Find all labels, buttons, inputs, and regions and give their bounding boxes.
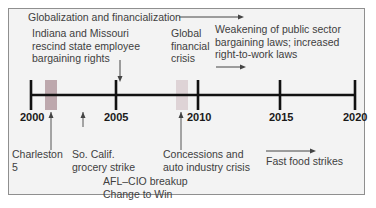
arrow-head-icon bbox=[238, 15, 244, 20]
year-label-2005: 2005 bbox=[104, 111, 128, 123]
financial-crisis-label: Global financial crisis bbox=[171, 27, 210, 65]
label-line: Change to Win bbox=[103, 188, 188, 201]
label-line: auto industry crisis bbox=[163, 161, 250, 174]
label-line: grocery strike bbox=[72, 161, 135, 174]
label-line: bargaining rights bbox=[32, 52, 140, 65]
fast-food-label: Fast food strikes bbox=[266, 155, 343, 168]
label-line: Global bbox=[171, 27, 210, 40]
arrow-head-icon bbox=[179, 112, 184, 118]
arrow-head-icon bbox=[81, 112, 86, 118]
label-line: right-to-work laws bbox=[215, 48, 341, 61]
label-line: rescind state employee bbox=[32, 40, 140, 53]
weakening-laws-label: Weakening of public sector bargaining la… bbox=[215, 23, 341, 61]
label-line: AFL–CIO breakup bbox=[103, 175, 188, 188]
year-label-2000: 2000 bbox=[20, 111, 44, 123]
year-label-2020: 2020 bbox=[343, 111, 367, 123]
indiana-missouri-label: Indiana and Missouri rescind state emplo… bbox=[32, 27, 140, 65]
arrow-head-icon bbox=[310, 149, 316, 154]
label-line: financial bbox=[171, 40, 210, 53]
label-line: So. Calif. bbox=[72, 148, 135, 161]
arrow-head-icon bbox=[118, 76, 123, 82]
year-label-2010: 2010 bbox=[187, 111, 211, 123]
charleston-label: Charleston 5 bbox=[12, 148, 63, 173]
label-line: 5 bbox=[12, 161, 63, 174]
label-line: bargaining laws; increased bbox=[215, 36, 341, 49]
arrow-head-icon bbox=[49, 112, 54, 118]
label-line: Indiana and Missouri bbox=[32, 27, 140, 40]
grocery-strike-label: So. Calif. grocery strike bbox=[72, 148, 135, 173]
year-label-2015: 2015 bbox=[269, 111, 293, 123]
concessions-label: Concessions and auto industry crisis bbox=[163, 148, 250, 173]
afl-cio-label: AFL–CIO breakup Change to Win bbox=[103, 175, 188, 200]
label-line: Charleston bbox=[12, 148, 63, 161]
arrow-head-icon bbox=[240, 65, 246, 70]
label-line: Concessions and bbox=[163, 148, 250, 161]
label-line: crisis bbox=[171, 52, 210, 65]
label-line: Weakening of public sector bbox=[215, 23, 341, 36]
globalization-label: Globalization and financialization bbox=[28, 11, 181, 24]
label-line: Fast food strikes bbox=[266, 155, 343, 168]
